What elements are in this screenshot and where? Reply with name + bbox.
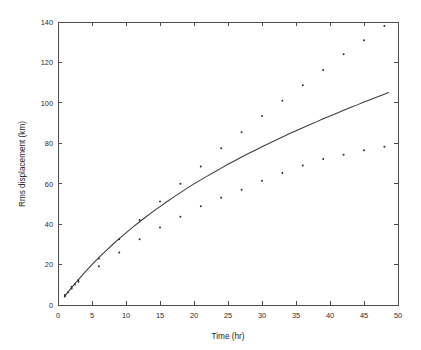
x-tick-label: 10 [122,311,130,320]
data-point-marker [322,69,324,71]
y-tick-label: 0 [49,301,53,310]
data-point-marker [77,279,79,281]
x-tick-label: 45 [360,311,368,320]
data-point-marker [281,172,283,174]
data-point-marker [241,131,243,133]
y-tick-label: 60 [45,180,53,189]
x-tick-label: 20 [190,311,198,320]
x-tick-label: 40 [326,311,334,320]
x-tick-label: 30 [258,311,266,320]
x-tick-label: 15 [156,311,164,320]
data-point-marker [179,183,181,185]
y-axis-label: Rms displacement (km) [18,121,27,207]
y-tick-label: 80 [45,139,53,148]
y-tick-label: 140 [41,18,53,27]
x-tick-label: 0 [56,311,60,320]
data-point-marker [98,265,100,267]
data-point-marker [220,147,222,149]
data-point-marker [220,197,222,199]
data-point-marker [118,251,120,253]
data-point-marker [74,283,76,285]
data-point-marker [322,158,324,160]
data-point-marker [159,227,161,229]
data-point-marker [302,165,304,167]
y-tick-label: 20 [45,260,53,269]
data-point-marker [67,291,69,293]
data-point-marker [71,286,73,288]
y-tick-label: 120 [41,58,53,67]
x-axis-label: Time (hr) [212,332,245,341]
scatter-plot: 05101520253035404550 020406080100120140 … [0,0,421,350]
data-point-marker [302,84,304,86]
x-tick-label: 35 [292,311,300,320]
data-point-marker [200,205,202,207]
data-point-marker [343,154,345,156]
figure-container: 05101520253035404550 020406080100120140 … [0,0,421,350]
data-point-marker [64,294,66,296]
data-point-marker [159,201,161,203]
x-tick-label: 25 [224,311,232,320]
data-point-marker [383,25,385,27]
data-point-marker [179,216,181,218]
data-point-marker [363,39,365,41]
data-point-marker [200,166,202,168]
data-point-marker [363,149,365,151]
data-point-marker [383,146,385,148]
x-tick-label: 5 [90,311,94,320]
data-point-marker [118,238,120,240]
data-point-marker [281,100,283,102]
data-point-marker [139,238,141,240]
x-tick-label: 50 [394,311,402,320]
data-point-marker [261,115,263,117]
data-point-marker [241,189,243,191]
data-point-marker [98,258,100,260]
data-point-marker [343,53,345,55]
plot-background [0,0,421,350]
data-point-marker [261,180,263,182]
y-tick-label: 40 [45,220,53,229]
y-tick-label: 100 [41,99,53,108]
data-point-marker [139,219,141,221]
